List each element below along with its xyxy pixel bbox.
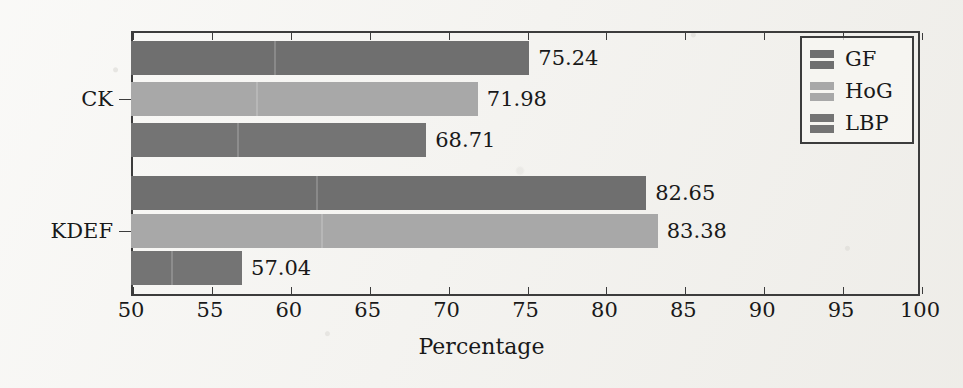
legend-swatch-block <box>810 125 834 133</box>
y-category-label: CK <box>81 89 113 110</box>
axis-tick <box>922 33 923 40</box>
legend-swatch-block <box>810 82 834 90</box>
axis-tick <box>685 33 686 40</box>
bar-value-label: 83.38 <box>667 221 727 242</box>
axis-tick <box>133 287 134 294</box>
axis-tick <box>133 33 134 40</box>
axis-tick <box>606 287 607 294</box>
x-tick-label: 60 <box>275 300 302 321</box>
axis-tick <box>528 33 529 40</box>
legend-label: LBP <box>845 113 889 134</box>
bar-hog-kdef <box>131 214 658 248</box>
axis-tick <box>291 287 292 294</box>
bar-hog-ck <box>131 82 478 116</box>
axis-tick <box>764 33 765 40</box>
x-tick-label: 85 <box>670 300 697 321</box>
legend-swatch-block <box>810 61 834 69</box>
axis-tick <box>843 287 844 294</box>
legend-swatch-block <box>810 50 834 58</box>
bar-lbp-ck <box>131 123 426 157</box>
axis-tick <box>922 287 923 294</box>
bar-gf-kdef <box>131 176 646 210</box>
x-tick-label: 50 <box>118 300 145 321</box>
x-tick-label: 95 <box>828 300 855 321</box>
x-tick-label: 100 <box>900 300 940 321</box>
axis-tick <box>370 287 371 294</box>
axis-tick <box>449 33 450 40</box>
legend-item-lbp[interactable]: LBP <box>810 107 906 139</box>
axis-tick <box>685 287 686 294</box>
y-category-tick <box>119 231 131 232</box>
bar-value-label: 57.04 <box>251 258 311 279</box>
x-tick-label: 70 <box>433 300 460 321</box>
x-tick-label: 65 <box>354 300 381 321</box>
legend-item-hog[interactable]: HoG <box>810 75 906 107</box>
axis-tick <box>291 33 292 40</box>
axis-tick <box>370 33 371 40</box>
axis-tick <box>212 33 213 40</box>
axis-tick <box>764 287 765 294</box>
legend-item-gf[interactable]: GF <box>810 43 906 75</box>
bar-chart-figure: 75.2471.9868.7182.6583.3857.04 505560657… <box>0 0 963 388</box>
x-axis-title: Percentage <box>0 336 963 358</box>
legend-label: HoG <box>845 81 893 102</box>
bar-value-label: 75.24 <box>538 48 598 69</box>
axis-tick <box>449 287 450 294</box>
axis-tick <box>528 287 529 294</box>
legend-swatch-block <box>810 114 834 122</box>
legend-swatch-block <box>810 93 834 101</box>
legend-swatch-gf <box>810 50 836 69</box>
bar-gf-ck <box>131 41 529 75</box>
bar-value-label: 71.98 <box>487 89 547 110</box>
axis-tick <box>606 33 607 40</box>
y-category-tick <box>119 99 131 100</box>
bar-lbp-kdef <box>131 251 242 285</box>
x-tick-label: 90 <box>749 300 776 321</box>
legend-swatch-hog <box>810 82 836 101</box>
x-tick-label: 55 <box>197 300 224 321</box>
x-tick-label: 75 <box>512 300 539 321</box>
chart-legend: GFHoGLBP <box>800 36 914 144</box>
legend-swatch-lbp <box>810 114 836 133</box>
bar-value-label: 68.71 <box>435 130 495 151</box>
axis-tick <box>212 287 213 294</box>
legend-label: GF <box>845 49 876 70</box>
x-tick-label: 80 <box>591 300 618 321</box>
y-category-label: KDEF <box>51 220 113 241</box>
bar-value-label: 82.65 <box>655 183 715 204</box>
